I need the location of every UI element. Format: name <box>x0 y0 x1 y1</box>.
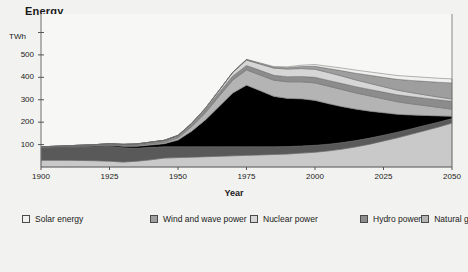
x-tick-2000: 2000 <box>295 172 335 181</box>
y-tick-500: 500 <box>8 50 34 59</box>
legend-item[interactable]: Solar energy <box>22 210 150 227</box>
legend-swatch-icon <box>150 215 158 223</box>
legend-item[interactable]: Hydro power <box>360 210 421 227</box>
legend-item[interactable]: Natural gas <box>421 210 468 227</box>
legend-item-label: Hydro power <box>373 214 421 224</box>
y-tick-400: 400 <box>8 72 34 81</box>
y-tick-100: 100 <box>8 140 34 149</box>
legend-swatch-icon <box>22 215 30 223</box>
legend-item-label: Wind and wave power <box>163 214 247 224</box>
legend-item[interactable]: Wind and wave power <box>150 210 250 227</box>
x-axis-title: Year <box>0 188 468 198</box>
x-tick-1925: 1925 <box>90 172 130 181</box>
legend-swatch-icon <box>421 215 429 223</box>
chart-legend: Solar energyWind and wave powerNuclear p… <box>22 210 452 227</box>
x-tick-2050: 2050 <box>432 172 468 181</box>
plot-area <box>0 0 468 200</box>
legend-swatch-icon <box>250 215 258 223</box>
x-tick-1900: 1900 <box>21 172 61 181</box>
legend-item-label: Solar energy <box>35 214 83 224</box>
legend-item-label: Nuclear power <box>263 214 318 224</box>
x-tick-2025: 2025 <box>364 172 404 181</box>
x-tick-1975: 1975 <box>227 172 267 181</box>
x-tick-1950: 1950 <box>158 172 198 181</box>
y-tick-200: 200 <box>8 117 34 126</box>
legend-swatch-icon <box>360 215 368 223</box>
energy-stacked-area-chart: Energy TWh 100200300400500 1900192519501… <box>0 0 468 272</box>
legend-item-label: Natural gas <box>434 214 468 224</box>
legend-item[interactable]: Nuclear power <box>250 210 360 227</box>
y-tick-300: 300 <box>8 95 34 104</box>
